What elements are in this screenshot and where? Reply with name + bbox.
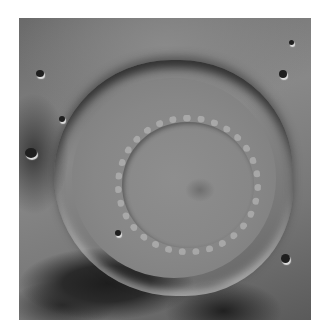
small-crater (36, 70, 44, 77)
small-crater (281, 254, 290, 263)
small-crater (25, 148, 37, 158)
small-crater (279, 70, 287, 78)
small-crater (59, 116, 65, 122)
small-crater (115, 230, 121, 236)
small-crater (289, 40, 294, 45)
floor-dark-spot (185, 178, 214, 202)
lunar-crater-photo (19, 18, 311, 320)
